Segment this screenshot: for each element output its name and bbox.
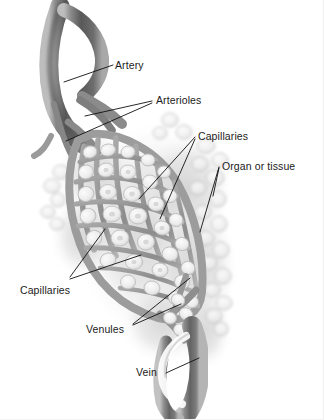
label-organ-or-tissue: Organ or tissue [222,160,295,172]
microcirculation-diagram: Artery Arterioles Capillaries Organ or t… [0,0,324,420]
label-arterioles: Arterioles [156,94,201,106]
label-artery: Artery [115,59,144,71]
label-capillaries-top: Capillaries [198,130,248,142]
figure-root: Artery Arterioles Capillaries Organ or t… [0,0,324,420]
label-vein: Vein [136,366,157,378]
label-venules: Venules [86,323,124,335]
label-capillaries-bottom: Capillaries [20,284,70,296]
